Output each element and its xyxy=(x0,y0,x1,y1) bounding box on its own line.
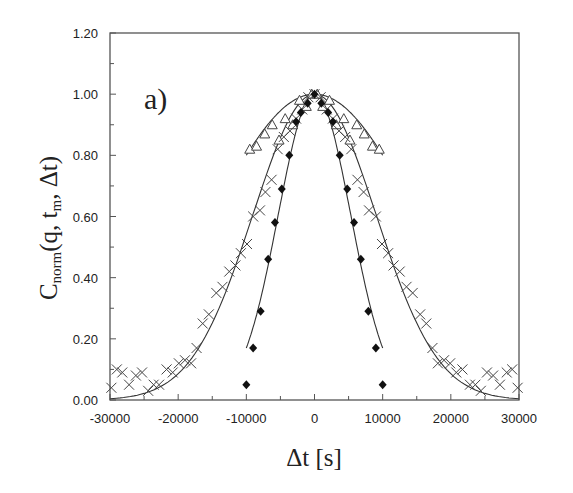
y-tick-label: 1.00 xyxy=(73,87,98,102)
diamond-marker xyxy=(285,151,293,160)
x-axis-title: Δt [s] xyxy=(286,444,342,471)
diamond-marker xyxy=(357,255,365,264)
y-title-args-sub: m xyxy=(48,199,64,211)
cross-marker xyxy=(395,267,405,277)
cross-marker xyxy=(106,383,116,393)
cross-marker xyxy=(198,319,208,329)
y-title-sub: norm xyxy=(48,251,64,283)
cross-marker xyxy=(204,309,214,319)
chart: -30000-20000-1000001000020000300000.000.… xyxy=(0,0,573,493)
cross-marker xyxy=(495,380,505,390)
cross-marker xyxy=(359,187,369,197)
data-points xyxy=(106,89,522,396)
cross-marker xyxy=(124,380,134,390)
diamond-marker xyxy=(264,255,272,264)
cross-marker xyxy=(415,309,425,319)
x-tick-label: -10000 xyxy=(226,411,266,426)
y-tick-label: 0.00 xyxy=(73,393,98,408)
cross-marker xyxy=(260,187,270,197)
cross-marker xyxy=(465,380,475,390)
fit-crosses-line xyxy=(110,94,519,399)
triangle-marker xyxy=(280,114,290,123)
fit-curves xyxy=(110,94,519,399)
cross-marker xyxy=(502,367,512,377)
y-tick-label: 1.20 xyxy=(73,26,98,41)
cross-marker xyxy=(217,282,227,292)
x-tick-label: 10000 xyxy=(365,411,401,426)
panel-label: a) xyxy=(144,82,167,116)
diamond-marker xyxy=(372,344,380,353)
y-tick-label: 0.20 xyxy=(73,332,98,347)
y-title-main: C xyxy=(35,283,62,300)
cross-marker xyxy=(230,260,240,270)
fit-triangles-line xyxy=(246,94,382,155)
cross-marker xyxy=(255,205,265,215)
y-axis-title: Cnorm(q, tm, Δt) xyxy=(35,156,64,300)
diamond-marker xyxy=(278,184,286,193)
cross-marker xyxy=(507,364,517,374)
diamond-marker xyxy=(249,344,257,353)
y-tick-label: 0.60 xyxy=(73,210,98,225)
x-tick-label: -20000 xyxy=(158,411,198,426)
axis-ticks: -30000-20000-1000001000020000300000.000.… xyxy=(73,26,537,426)
svg-text:Cnorm(q, tm, Δt): Cnorm(q, tm, Δt) xyxy=(35,156,64,300)
cross-marker xyxy=(154,380,164,390)
plot-border xyxy=(110,33,519,400)
triangle-marker xyxy=(339,114,349,123)
cross-marker xyxy=(513,383,523,393)
cross-marker xyxy=(149,380,159,390)
x-tick-label: 30000 xyxy=(501,411,537,426)
x-tick-label: 20000 xyxy=(433,411,469,426)
diamond-marker xyxy=(379,380,387,389)
diamond-marker xyxy=(336,151,344,160)
cross-marker xyxy=(421,319,431,329)
cross-marker xyxy=(408,288,418,298)
cross-marker xyxy=(352,175,362,185)
y-title-args: (q, t xyxy=(35,211,63,251)
x-tick-label: -30000 xyxy=(90,411,130,426)
plot-frame xyxy=(110,33,519,400)
diamond-marker xyxy=(343,184,351,193)
cross-marker xyxy=(267,175,277,185)
x-tick-label: 0 xyxy=(311,411,318,426)
y-tick-label: 0.40 xyxy=(73,271,98,286)
y-title-args-end: , Δt) xyxy=(35,156,63,200)
diamond-marker xyxy=(242,380,250,389)
y-tick-label: 0.80 xyxy=(73,148,98,163)
cross-marker xyxy=(117,367,127,377)
